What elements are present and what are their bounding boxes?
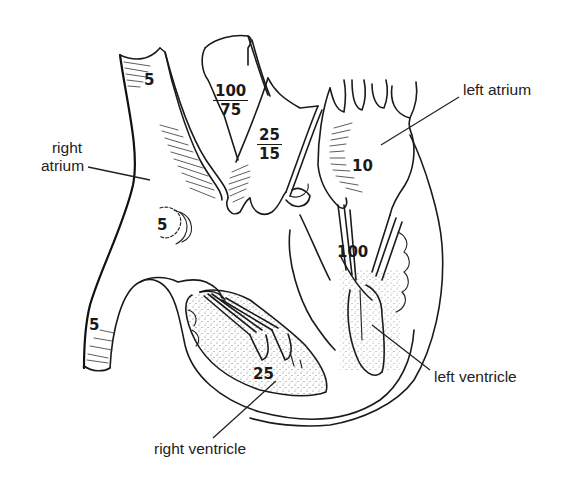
pressure-left-ventricle: 100 <box>337 244 368 260</box>
label-right-ventricle: right ventricle <box>154 440 246 458</box>
pressure-superior-vena-cava: 5 <box>144 72 154 88</box>
label-right-atrium-line2: atrium <box>41 157 84 175</box>
left-atrium <box>318 80 417 215</box>
heart-illustration <box>0 0 586 490</box>
label-right-atrium: right atrium <box>41 139 84 175</box>
leader-right-atrium <box>88 167 150 180</box>
label-left-atrium: left atrium <box>463 81 531 99</box>
pressure-pulmonary-diastolic: 15 <box>257 145 282 162</box>
pressure-right-ventricle: 25 <box>253 366 274 382</box>
pressure-pulmonary-artery: 25 15 <box>257 127 282 162</box>
leader-right-ventricle <box>213 381 276 438</box>
pressure-left-atrium: 10 <box>352 158 373 174</box>
pressure-aorta-systolic: 100 <box>213 83 248 101</box>
pressure-aorta: 100 75 <box>213 83 248 118</box>
pressure-right-atrium: 5 <box>157 217 167 233</box>
leader-left-atrium <box>381 97 459 145</box>
pressure-aorta-diastolic: 75 <box>213 101 248 118</box>
label-right-atrium-line1: right <box>41 139 84 157</box>
pressure-pulmonary-systolic: 25 <box>257 127 282 145</box>
label-left-ventricle: left ventricle <box>434 368 517 386</box>
pressure-inferior-vena-cava: 5 <box>89 317 99 333</box>
